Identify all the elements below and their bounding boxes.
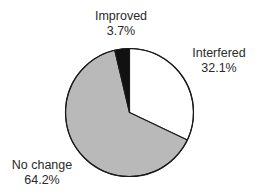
label-improved-percent: 3.7%: [95, 24, 147, 39]
label-improved-name: Improved: [95, 9, 147, 24]
label-interfered: Interfered 32.1%: [192, 46, 246, 75]
pie-chart: Improved 3.7% Interfered 32.1% No change…: [0, 0, 259, 195]
label-improved: Improved 3.7%: [95, 9, 147, 38]
pie-slices: [66, 49, 194, 177]
label-no-change-percent: 64.2%: [12, 173, 72, 188]
label-no-change: No change 64.2%: [12, 158, 72, 187]
label-interfered-name: Interfered: [192, 46, 246, 61]
label-no-change-name: No change: [12, 158, 72, 173]
label-interfered-percent: 32.1%: [192, 61, 246, 76]
